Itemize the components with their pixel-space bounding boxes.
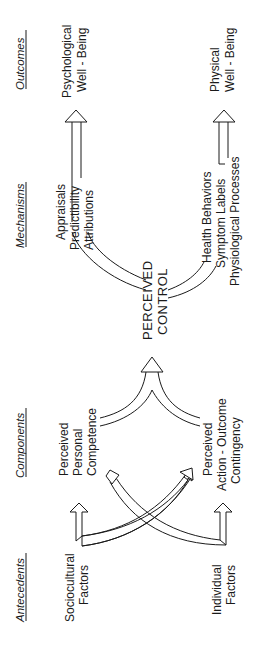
outcome-physical-well-being: Physical Well - Being <box>208 28 237 92</box>
arrow-components-to-perceived-control <box>100 357 200 426</box>
component-personal-competence: Perceived Personal Competence <box>57 408 99 476</box>
header-antecedents: Antecedents <box>14 553 26 623</box>
svg-text:Competence: Competence <box>85 408 99 476</box>
mechanism-psychological-list: Appraisals Predictibility Attributions <box>54 184 96 250</box>
svg-text:Factors: Factors <box>224 565 238 605</box>
svg-text:Action - Outcome: Action - Outcome <box>215 398 229 491</box>
perceived-control-diagram: Outcomes Mechanisms Components Anteceden… <box>0 0 258 649</box>
svg-text:Perceived: Perceived <box>57 423 71 476</box>
svg-text:Factors: Factors <box>77 565 91 605</box>
center-perceived-control: PERCEIVED CONTROL <box>140 260 170 340</box>
svg-text:Perceived: Perceived <box>201 423 215 476</box>
header-outcomes: Outcomes <box>14 30 26 90</box>
svg-text:CONTROL: CONTROL <box>155 268 170 335</box>
svg-text:Attributions: Attributions <box>82 190 96 250</box>
svg-text:Psychological: Psychological <box>60 25 74 98</box>
svg-text:Components: Components <box>14 413 26 478</box>
svg-text:Appraisals: Appraisals <box>54 184 68 240</box>
antecedent-sociocultural-factors: Sociocultural Factors <box>63 553 91 622</box>
svg-text:PERCEIVED: PERCEIVED <box>140 260 155 340</box>
svg-text:Individual: Individual <box>210 564 224 615</box>
svg-text:Predictibility: Predictibility <box>68 186 82 250</box>
svg-text:Sociocultural: Sociocultural <box>63 553 77 622</box>
antecedent-individual-factors: Individual Factors <box>210 564 238 615</box>
svg-text:Physiological Processes: Physiological Processes <box>228 157 242 286</box>
svg-text:Mechanisms: Mechanisms <box>14 183 26 248</box>
mechanism-physical-list: Health Behaviors Symptom Labels Physiolo… <box>200 157 242 286</box>
svg-text:Physical: Physical <box>208 47 222 92</box>
svg-text:Antecedents: Antecedents <box>14 558 26 623</box>
svg-text:Health Behaviors: Health Behaviors <box>200 172 214 263</box>
svg-text:Well - Being: Well - Being <box>75 28 89 92</box>
svg-text:Symptom Labels: Symptom Labels <box>214 179 228 268</box>
header-components: Components <box>14 408 26 478</box>
svg-text:Well - Being: Well - Being <box>223 28 237 92</box>
svg-text:Contingency: Contingency <box>229 417 243 484</box>
svg-text:Outcomes: Outcomes <box>14 37 26 90</box>
component-action-outcome-contingency: Perceived Action - Outcome Contingency <box>201 398 243 491</box>
arrow-sociocultural-to-contingency <box>82 468 193 546</box>
outcome-psychological-well-being: Psychological Well - Being <box>60 25 89 98</box>
header-mechanisms: Mechanisms <box>14 182 26 248</box>
arrow-individual-to-contingency <box>214 503 232 545</box>
svg-text:Personal: Personal <box>71 429 85 476</box>
